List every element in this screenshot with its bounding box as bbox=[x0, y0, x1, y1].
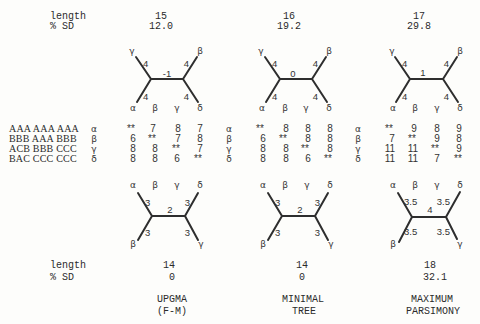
row-label: α bbox=[226, 124, 232, 134]
branch-ur: 4 bbox=[313, 58, 318, 69]
row-label: β bbox=[226, 134, 232, 144]
matrix-cell: 8 bbox=[283, 153, 289, 164]
leaf-upper-right: β bbox=[326, 46, 332, 56]
top-label: δ bbox=[327, 180, 333, 190]
branch-ll: 4 bbox=[272, 91, 277, 102]
leaf-lower-right: γ bbox=[457, 239, 463, 249]
row-label: α bbox=[91, 124, 97, 134]
tree3-sd: 32.1 bbox=[423, 272, 447, 283]
branch-ll: 4 bbox=[143, 91, 148, 102]
row-label: β bbox=[91, 134, 97, 144]
top-label: α bbox=[260, 180, 266, 190]
matrix-cell: 11 bbox=[408, 153, 419, 164]
method-3-line2: PARSIMONY bbox=[406, 306, 460, 317]
method-3-line1: MAXIMUM bbox=[411, 294, 453, 305]
tree1-length: 14 bbox=[163, 260, 175, 271]
bottom-label: δ bbox=[197, 103, 203, 113]
row-label: α bbox=[355, 124, 361, 134]
matrix-cell: 8 bbox=[130, 153, 136, 164]
leaf-lower-right: γ bbox=[198, 239, 204, 249]
bottom-tree-1: α β γ δ β γ 3 3 3 3 2 bbox=[130, 180, 204, 249]
top-label: γ bbox=[174, 180, 180, 190]
top-label: δ bbox=[197, 180, 203, 190]
figure-canvas: length % SD 15 12.0 16 19.2 17 29.8 γ β … bbox=[0, 0, 480, 324]
top-label: γ bbox=[304, 180, 310, 190]
top-label: γ bbox=[434, 180, 440, 190]
distance-matrix-2: α β γ δ ** 8 8 8 6 ** 8 8 8 8 ** 8 8 8 6… bbox=[226, 123, 333, 164]
leaf-lower-left: β bbox=[130, 239, 136, 249]
leaf-upper-right: β bbox=[457, 46, 463, 56]
branch-lr: 4 bbox=[313, 91, 318, 102]
branch-lr: 3 bbox=[315, 227, 320, 238]
branch-ur: 4 bbox=[184, 58, 189, 69]
bottom-label: δ bbox=[457, 103, 463, 113]
tree2-sd: 0 bbox=[299, 272, 305, 283]
bottom-label: β bbox=[282, 103, 288, 113]
branch-internal: 1 bbox=[420, 67, 425, 78]
distance-matrix-1: α β γ δ ** 7 8 7 6 ** 7 8 8 8 ** 7 8 8 6… bbox=[91, 123, 203, 164]
bottom-label: γ bbox=[303, 103, 309, 113]
leaf-upper-left: γ bbox=[389, 46, 395, 56]
matrix-cell: 7 bbox=[434, 153, 440, 164]
branch-ur: 3.5 bbox=[437, 196, 450, 207]
sd-label: % SD bbox=[50, 272, 74, 283]
row-label: δ bbox=[91, 154, 97, 164]
tree3-sd: 29.8 bbox=[407, 21, 431, 32]
method-1-line1: UPGMA bbox=[157, 294, 187, 305]
bottom-label: α bbox=[130, 103, 136, 113]
sd-label: % SD bbox=[50, 21, 74, 32]
leaf-lower-right: γ bbox=[328, 239, 334, 249]
tree1-sd: 12.0 bbox=[149, 21, 173, 32]
branch-lr: 3 bbox=[185, 227, 190, 238]
top-label: β bbox=[152, 180, 158, 190]
bottom-stats: length % SD 14 0 14 0 18 32.1 bbox=[50, 260, 447, 283]
matrix-cell: 6 bbox=[305, 153, 311, 164]
leaf-lower-left: β bbox=[260, 239, 266, 249]
branch-internal: 2 bbox=[167, 204, 172, 215]
row-label: γ bbox=[355, 144, 361, 154]
top-label: α bbox=[390, 180, 396, 190]
matrix-cell: 11 bbox=[385, 153, 396, 164]
tree-comparison-figure: length % SD 15 12.0 16 19.2 17 29.8 γ β … bbox=[0, 0, 480, 324]
sequence-list: AAA AAA AAA BBB AAA BBB ACB BBB CCC BAC … bbox=[9, 123, 80, 164]
branch-ul: 3 bbox=[275, 197, 280, 208]
branch-lr: 4 bbox=[444, 91, 449, 102]
top-label: β bbox=[282, 180, 288, 190]
branch-ur: 4 bbox=[444, 58, 449, 69]
row-label: γ bbox=[226, 144, 232, 154]
bottom-label: δ bbox=[326, 103, 332, 113]
top-label: β bbox=[412, 180, 418, 190]
branch-ul: 4 bbox=[272, 58, 277, 69]
branch-ll: 4 bbox=[402, 91, 407, 102]
branch-ul: 3.5 bbox=[404, 196, 417, 207]
tree1-sd: 0 bbox=[169, 272, 175, 283]
branch-ll: 3.5 bbox=[404, 226, 417, 237]
bottom-label: α bbox=[259, 103, 265, 113]
bottom-label: γ bbox=[434, 103, 440, 113]
tree3-length: 18 bbox=[424, 260, 436, 271]
row-label: δ bbox=[355, 154, 361, 164]
tree2-length: 14 bbox=[296, 260, 308, 271]
row-label: γ bbox=[91, 144, 97, 154]
leaf-upper-left: γ bbox=[258, 46, 264, 56]
row-label: β bbox=[355, 134, 361, 144]
branch-ur: 3 bbox=[185, 197, 190, 208]
bottom-label: γ bbox=[174, 103, 180, 113]
matrix-cell: ** bbox=[194, 153, 202, 164]
method-2-line2: TREE bbox=[292, 306, 316, 317]
branch-ul: 4 bbox=[402, 58, 407, 69]
branch-ll: 3 bbox=[145, 227, 150, 238]
leaf-lower-left: β bbox=[390, 239, 396, 249]
method-1-line2: (F-M) bbox=[157, 306, 187, 317]
method-labels: UPGMA (F-M) MINIMAL TREE MAXIMUM PARSIMO… bbox=[157, 294, 460, 317]
leaf-upper-left: γ bbox=[129, 46, 135, 56]
matrix-cell: 8 bbox=[152, 153, 158, 164]
sequence-row: BAC CCC CCC bbox=[9, 153, 77, 164]
row-label: δ bbox=[226, 154, 232, 164]
bottom-label: β bbox=[412, 103, 418, 113]
leaf-upper-right: β bbox=[197, 46, 203, 56]
branch-ul: 4 bbox=[143, 58, 148, 69]
branch-lr: 4 bbox=[184, 91, 189, 102]
tree2-sd: 19.2 bbox=[277, 21, 301, 32]
bottom-label: β bbox=[152, 103, 158, 113]
